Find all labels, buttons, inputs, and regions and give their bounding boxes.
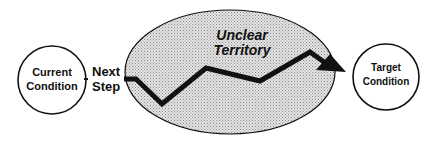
- unclear-label-1: Unclear: [216, 27, 269, 43]
- target-condition-label-1: Target: [371, 62, 401, 73]
- current-condition-node: Current Condition: [18, 46, 86, 114]
- next-step-label-1: Next: [92, 64, 121, 79]
- current-condition-label-2: Condition: [26, 80, 78, 92]
- target-condition-label-2: Condition: [363, 76, 410, 87]
- target-condition-node: Target Condition: [353, 44, 419, 110]
- next-step-label-2: Step: [92, 79, 120, 94]
- unclear-label-2: Territory: [213, 42, 271, 58]
- diagram-canvas: Current Condition Next Step Unclear Terr…: [0, 0, 436, 143]
- current-condition-label-1: Current: [32, 66, 72, 78]
